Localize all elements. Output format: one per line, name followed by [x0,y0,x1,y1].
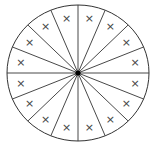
sector-mark: × [130,77,139,90]
sector-divider [78,25,128,73]
sector-mark: × [62,12,71,25]
sector-mark: × [85,12,94,25]
sector-mark: × [41,113,50,126]
sector-divider [78,73,128,121]
sector-mark: × [85,121,94,134]
sector-divider [28,25,78,73]
sector-mark: × [106,113,115,126]
sector-mark: × [25,97,34,110]
sector-mark: × [122,97,131,110]
sector-mark: × [122,36,131,49]
sector-mark: × [62,121,71,134]
center-dot [75,70,80,75]
sector-mark: × [41,20,50,33]
sector-mark: × [16,56,25,69]
sector-mark: × [16,77,25,90]
sector-mark: × [130,56,139,69]
divided-circle-diagram: ×××××××××××××××× [0,0,158,146]
sector-mark: × [25,36,34,49]
sector-divider [28,73,78,121]
sector-mark: × [106,20,115,33]
